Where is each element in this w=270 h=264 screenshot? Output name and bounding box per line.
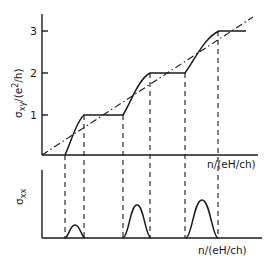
upper-y-label: σxy/(e2/h)	[11, 68, 27, 118]
sigma-xx-peak-3	[186, 200, 218, 238]
ytick-label-2: 2	[30, 67, 37, 80]
lower-y-label: σxx	[13, 189, 28, 205]
sigma-xx-peak-2	[123, 205, 151, 238]
ytick-label-1: 1	[30, 109, 37, 122]
svg-text:σxx: σxx	[13, 189, 28, 205]
quantum-hall-diagram: 1 2 3 σxy/(e2/h) n/(eH/ch) σxx n/(eH/ch)	[0, 0, 270, 264]
sigma-xy-staircase	[65, 31, 246, 155]
svg-text:σxy/(e2/h): σxy/(e2/h)	[11, 68, 27, 118]
sigma-xx-peak-1	[65, 225, 85, 238]
upper-x-label: n/(eH/ch)	[207, 158, 256, 170]
ytick-label-3: 3	[30, 25, 37, 38]
lower-x-label: n/(eH/ch)	[198, 244, 247, 256]
